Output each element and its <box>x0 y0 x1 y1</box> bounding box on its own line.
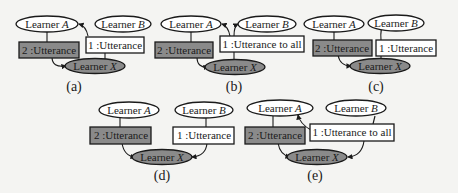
communication-diagrams: Learner A Learner B 2 :Utterance 1 :Utte… <box>0 0 458 193</box>
svg-text:Learner B: Learner B <box>182 104 226 116</box>
svg-text:Learner A: Learner A <box>25 18 69 30</box>
caption-e: (e) <box>307 168 323 184</box>
svg-text:Learner X: Learner X <box>140 151 185 163</box>
caption-c: (c) <box>368 79 384 95</box>
svg-text:Learner X: Learner X <box>358 60 403 72</box>
message-1-box: 1 :Utterance <box>86 37 144 53</box>
learner-x-node: Learner X <box>205 60 265 75</box>
caption-d: (d) <box>154 168 171 184</box>
svg-text:1 :Utterance to all: 1 :Utterance to all <box>312 126 391 138</box>
svg-text:1 :Utterance: 1 :Utterance <box>88 39 142 51</box>
message-1-box: 1 :Utterance <box>376 40 436 56</box>
message-1-box: 1 :Utterance <box>173 127 234 144</box>
edge-msg1-to-a <box>222 24 230 36</box>
message-1-box: 1 :Utterance to all <box>220 36 304 52</box>
edge-msg2-to-x <box>338 55 351 66</box>
svg-text:2 :Utterance: 2 :Utterance <box>248 129 302 141</box>
svg-text:Learner X: Learner X <box>295 151 340 163</box>
panel-a: Learner A Learner B 2 :Utterance 1 :Utte… <box>16 16 151 95</box>
learner-b-node: Learner B <box>368 15 424 31</box>
svg-text:2 :Utterance: 2 :Utterance <box>157 44 211 56</box>
learner-x-node: Learner X <box>350 59 410 74</box>
edge-msg1-to-b <box>234 24 238 36</box>
svg-text:2 :Utterance: 2 :Utterance <box>94 129 148 141</box>
learner-x-node: Learner X <box>132 150 192 165</box>
svg-text:Learner A: Learner A <box>169 18 213 30</box>
svg-text:1 :Utterance: 1 :Utterance <box>379 42 433 54</box>
learner-b-node: Learner B <box>175 102 233 118</box>
learner-x-node: Learner X <box>65 59 125 74</box>
panel-b: Learner A Learner B 2 :Utterance 1 :Utte… <box>155 16 304 95</box>
message-1-box: 1 :Utterance to all <box>310 124 394 141</box>
panel-e: Learner A Learner B 2 :Utterance 1 :Utte… <box>245 100 394 184</box>
learner-x-node: Learner X <box>287 150 347 165</box>
svg-text:Learner B: Learner B <box>101 18 145 30</box>
message-2-box: 2 :Utterance <box>313 40 372 56</box>
svg-text:Learner A: Learner A <box>258 102 302 114</box>
svg-text:2 :Utterance: 2 :Utterance <box>22 44 76 56</box>
svg-text:2 :Utterance: 2 :Utterance <box>315 42 369 54</box>
learner-b-node: Learner B <box>238 16 296 32</box>
learner-a-node: Learner A <box>16 16 78 32</box>
learner-a-node: Learner A <box>161 16 221 32</box>
svg-text:1 :Utterance to all: 1 :Utterance to all <box>222 38 301 50</box>
edge-b-to-msg1 <box>373 116 375 124</box>
svg-text:Learner B: Learner B <box>334 102 378 114</box>
message-2-box: 2 :Utterance <box>90 127 151 144</box>
edge-msg1-to-x <box>192 143 207 157</box>
svg-text:Learner B: Learner B <box>374 17 418 29</box>
learner-a-node: Learner A <box>99 102 159 118</box>
svg-text:1 :Utterance: 1 :Utterance <box>177 129 231 141</box>
panel-c: Learner A Learner B 2 :Utterance 1 :Utte… <box>304 15 436 95</box>
svg-text:Learner A: Learner A <box>107 104 151 116</box>
learner-a-node: Learner A <box>304 16 364 32</box>
svg-text:Learner A: Learner A <box>312 18 356 30</box>
caption-a: (a) <box>66 79 82 95</box>
caption-b: (b) <box>226 79 243 95</box>
edge-msg1-to-a <box>79 24 88 36</box>
learner-b-node: Learner B <box>326 100 386 116</box>
message-2-box: 2 :Utterance <box>155 42 213 58</box>
message-2-box: 2 :Utterance <box>19 42 79 58</box>
svg-text:Learner X: Learner X <box>73 60 118 72</box>
learner-b-node: Learner B <box>95 16 151 32</box>
svg-text:Learner X: Learner X <box>213 61 258 73</box>
svg-text:Learner B: Learner B <box>245 18 289 30</box>
edge-msg1-to-x <box>348 141 364 157</box>
panel-d: Learner A Learner B 2 :Utterance 1 :Utte… <box>90 102 234 184</box>
learner-a-node: Learner A <box>247 100 313 116</box>
message-2-box: 2 :Utterance <box>245 127 305 144</box>
